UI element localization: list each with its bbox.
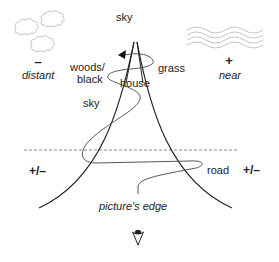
arrowhead-icon	[118, 50, 126, 59]
eye-icon	[132, 230, 144, 245]
label-grass: grass	[158, 62, 185, 74]
diagram-canvas	[0, 0, 279, 262]
label-road: road	[207, 164, 229, 176]
label-picture-edge: picture's edge	[99, 200, 167, 212]
label-woods: woods/	[70, 61, 105, 73]
label-sky-mid: sky	[83, 97, 100, 109]
label-sky-top: sky	[116, 11, 133, 23]
label-distant: distant	[22, 69, 54, 81]
label-near: near	[219, 69, 241, 81]
wave-icon	[187, 27, 263, 48]
label-black: black	[77, 73, 103, 85]
label-house: house	[120, 77, 150, 89]
perspective-diagram: sky woods/ black house grass sky road pi…	[0, 0, 279, 262]
label-right-plus-minus: +/–	[243, 164, 260, 176]
label-left-plus-minus: +/–	[29, 165, 46, 177]
cloud-icon	[15, 11, 64, 52]
label-near-sign: +	[219, 55, 239, 67]
label-distant-sign: –	[28, 56, 48, 68]
